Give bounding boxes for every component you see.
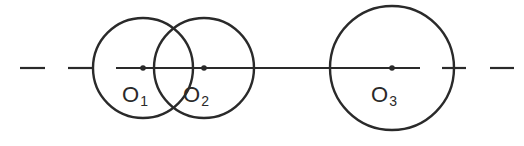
- center-point-o2: [201, 65, 207, 71]
- center-point-o3: [389, 65, 395, 71]
- diagram-canvas: O1O2O3: [0, 0, 524, 146]
- diagram-svg: O1O2O3: [0, 0, 524, 146]
- label-o3: O3: [371, 82, 397, 109]
- label-o1: O1: [122, 82, 148, 109]
- label-o2: O2: [183, 82, 209, 109]
- center-point-o1: [140, 65, 146, 71]
